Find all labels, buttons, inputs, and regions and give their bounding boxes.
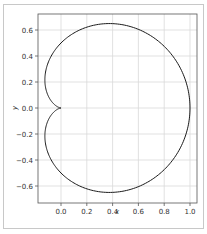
y-axis-ticks: −0.6−0.4−0.20.00.20.40.6 [16,27,38,191]
y-axis-label: y [11,105,19,111]
x-tick-label: 0.2 [81,208,92,216]
cardioid-chart: 0.00.20.40.60.81.0 −0.6−0.4−0.20.00.20.4… [0,0,207,234]
y-tick-label: 0.6 [22,27,34,35]
x-tick-label: 1.0 [184,208,195,216]
x-tick-label: 0.0 [55,208,66,216]
x-axis-ticks: 0.00.20.40.60.81.0 [55,203,195,216]
y-tick-label: 0.4 [22,53,34,61]
y-tick-label: −0.4 [16,157,34,165]
x-tick-label: 0.6 [133,208,145,216]
x-tick-label: 0.8 [159,208,170,216]
y-tick-label: −0.2 [16,131,33,139]
y-tick-label: 0.2 [22,79,33,87]
x-axis-label: x [114,208,120,216]
y-tick-label: 0.0 [22,105,33,113]
y-tick-label: −0.6 [16,183,34,191]
